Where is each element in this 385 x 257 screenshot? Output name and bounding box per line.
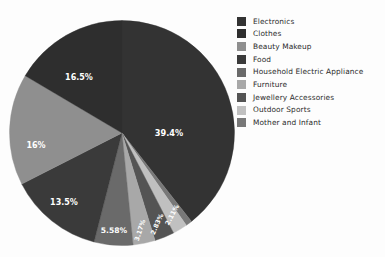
pie-slice-label: 16.5% <box>65 73 93 82</box>
legend-item[interactable]: Household Electric Appliance <box>237 66 385 79</box>
pie-chart: 39.4%2.11%2.83%3.17%5.58%13.5%16%16.5% <box>9 20 235 246</box>
legend-color-swatch <box>237 118 246 127</box>
legend-color-swatch <box>237 17 246 26</box>
legend-item-label: Clothes <box>253 30 281 37</box>
legend-item-label: Food <box>253 56 271 63</box>
legend-color-swatch <box>237 68 246 77</box>
legend-item-label: Household Electric Appliance <box>253 68 363 75</box>
legend-item-label: Electronics <box>253 18 294 25</box>
legend-item[interactable]: Electronics <box>237 15 385 28</box>
legend-item[interactable]: Jewellery Accessories <box>237 91 385 104</box>
pie-slice-label: 13.5% <box>50 198 78 207</box>
legend-item[interactable]: Mother and Infant <box>237 117 385 130</box>
pie-svg: 39.4%2.11%2.83%3.17%5.58%13.5%16%16.5% <box>9 20 235 246</box>
chart-canvas: 39.4%2.11%2.83%3.17%5.58%13.5%16%16.5% E… <box>0 0 385 257</box>
legend-item[interactable]: Furniture <box>237 78 385 91</box>
legend-color-swatch <box>237 93 246 102</box>
legend-color-swatch <box>237 42 246 51</box>
legend: ElectronicsClothesBeauty MakeupFoodHouse… <box>237 15 385 129</box>
pie-slice-label: 5.58% <box>101 226 128 235</box>
legend-color-swatch <box>237 55 246 64</box>
pie-slice-label: 16% <box>26 141 45 150</box>
legend-item[interactable]: Beauty Makeup <box>237 40 385 53</box>
legend-item-label: Furniture <box>253 81 287 88</box>
legend-item[interactable]: Clothes <box>237 28 385 41</box>
legend-color-swatch <box>237 29 246 38</box>
legend-item-label: Jewellery Accessories <box>253 94 334 101</box>
legend-item-label: Beauty Makeup <box>253 43 312 50</box>
legend-item-label: Outdoor Sports <box>253 106 311 113</box>
pie-slice-group <box>10 21 235 246</box>
legend-item-label: Mother and Infant <box>253 119 321 126</box>
legend-item[interactable]: Food <box>237 53 385 66</box>
pie-slice-label: 39.4% <box>155 128 183 138</box>
legend-color-swatch <box>237 80 246 89</box>
legend-item[interactable]: Outdoor Sports <box>237 104 385 117</box>
legend-color-swatch <box>237 106 246 115</box>
